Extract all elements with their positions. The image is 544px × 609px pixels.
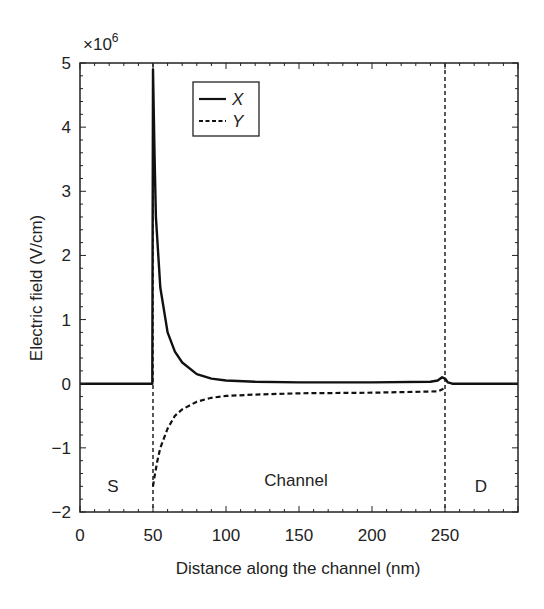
channel-region-label: Channel — [264, 471, 327, 490]
y-axis-title: Electric field (V/cm) — [27, 215, 46, 361]
x-tick-label: 250 — [431, 526, 459, 545]
y-tick-label: 3 — [62, 182, 71, 201]
y-tick-label: 0 — [62, 375, 71, 394]
drain-region-label: D — [475, 477, 487, 496]
x-axis-title: Distance along the channel (nm) — [176, 559, 421, 578]
y-tick-label: 1 — [62, 311, 71, 330]
series-x-line — [80, 69, 518, 383]
y-tick-label: 4 — [62, 118, 71, 137]
source-region-label: S — [107, 477, 118, 496]
legend-y-label: Y — [232, 112, 245, 131]
x-tick-label: 100 — [212, 526, 240, 545]
y-tick-label: −2 — [52, 503, 71, 522]
y-tick-label: −1 — [52, 439, 71, 458]
x-tick-label: 50 — [144, 526, 163, 545]
y-tick-label: 2 — [62, 246, 71, 265]
x-tick-label: 150 — [285, 526, 313, 545]
y-tick-label: 5 — [62, 54, 71, 73]
plot-frame — [80, 63, 518, 512]
electric-field-chart: 050100150200250−2−1012345 ×106 Distance … — [0, 0, 544, 609]
y-axis-multiplier: ×106 — [83, 31, 119, 54]
x-tick-label: 0 — [75, 526, 84, 545]
x-tick-label: 200 — [358, 526, 386, 545]
legend-x-label: X — [231, 90, 244, 109]
legend: X Y — [193, 82, 259, 136]
